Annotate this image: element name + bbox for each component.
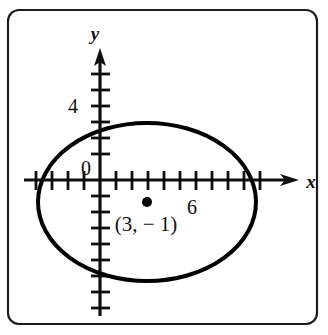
coordinate-plane-graphic: y x 0 4 6 (3, − 1) (0, 0, 328, 335)
y-axis-label: y (89, 23, 100, 44)
x-axis-label: x (305, 171, 316, 192)
center-point-dot (142, 197, 152, 207)
figure-container: y x 0 4 6 (3, − 1) (0, 0, 328, 335)
center-point-label: (3, − 1) (115, 212, 178, 236)
figure-border (8, 10, 317, 324)
y-tick-label-4: 4 (68, 95, 78, 117)
origin-label: 0 (81, 157, 91, 179)
x-tick-label-6: 6 (187, 196, 197, 218)
